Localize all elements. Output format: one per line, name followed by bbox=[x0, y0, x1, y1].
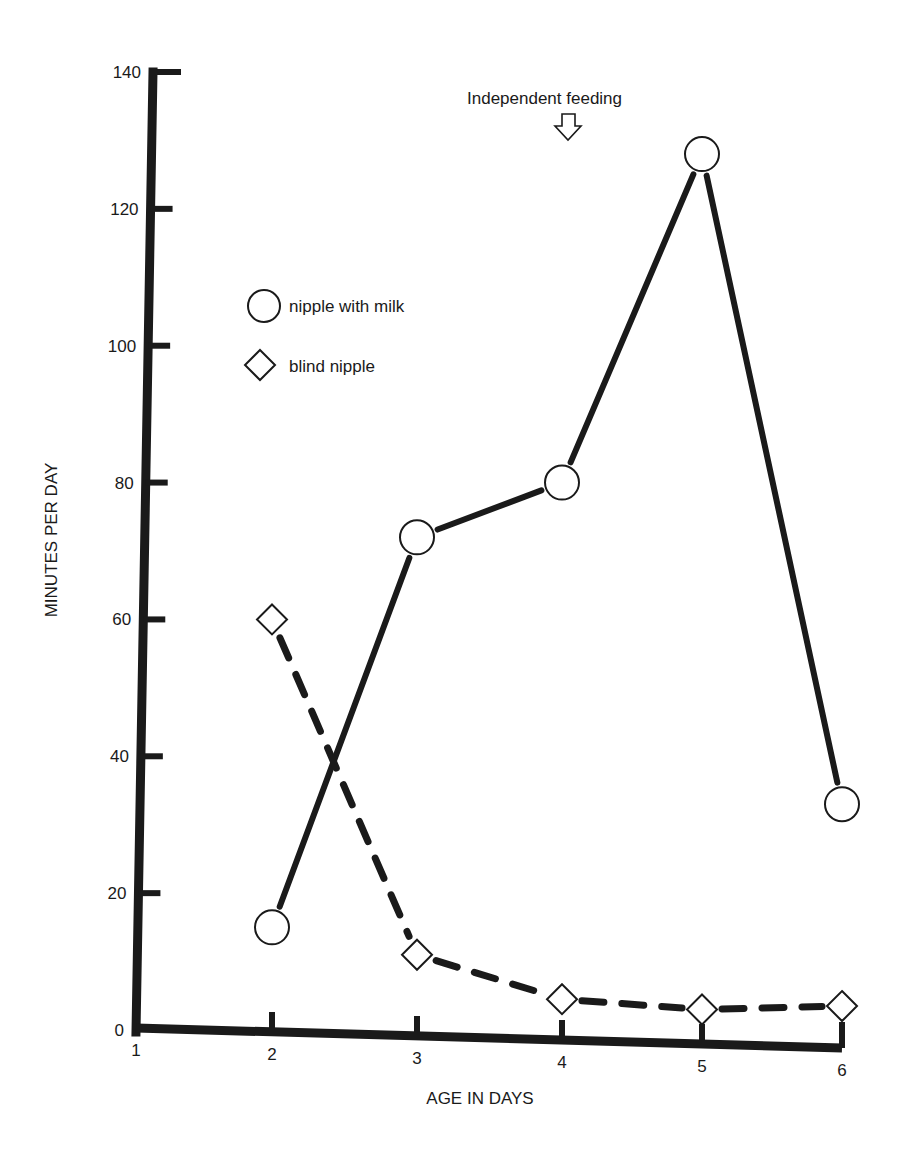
circle-marker-icon bbox=[248, 290, 280, 322]
series-blind-nipple bbox=[257, 604, 857, 1024]
y-tick-label: 140 bbox=[113, 63, 141, 82]
x-tick-label: 2 bbox=[267, 1045, 276, 1064]
series-nipple-with-milk bbox=[255, 137, 859, 944]
diamond-marker-icon bbox=[827, 991, 857, 1021]
x-axis: 123456 bbox=[131, 1012, 846, 1080]
diamond-marker-icon bbox=[257, 604, 287, 634]
x-tick-label: 4 bbox=[557, 1053, 566, 1072]
y-axis-title: MINUTES PER DAY bbox=[42, 463, 61, 618]
circle-marker-icon bbox=[685, 137, 719, 171]
y-axis: 020406080100120140 bbox=[108, 63, 181, 1040]
legend-label-milk: nipple with milk bbox=[289, 297, 405, 316]
diamond-marker-icon bbox=[245, 350, 275, 380]
y-tick-label: 120 bbox=[110, 200, 138, 219]
line-chart: 020406080100120140 123456 MINUTES PER DA… bbox=[0, 0, 906, 1161]
legend: nipple with milk blind nipple bbox=[245, 290, 405, 380]
diamond-marker-icon bbox=[687, 994, 717, 1024]
x-tick-label: 5 bbox=[697, 1057, 706, 1076]
legend-label-blind: blind nipple bbox=[289, 357, 375, 376]
series-layer bbox=[255, 137, 859, 1024]
y-tick-label: 40 bbox=[110, 747, 129, 766]
y-tick-label: 60 bbox=[112, 610, 131, 629]
circle-marker-icon bbox=[255, 910, 289, 944]
x-axis-title: AGE IN DAYS bbox=[426, 1089, 533, 1108]
x-tick-label: 1 bbox=[131, 1041, 140, 1060]
diamond-marker-icon bbox=[402, 940, 432, 970]
legend-item-milk: nipple with milk bbox=[248, 290, 405, 322]
y-tick-label: 20 bbox=[108, 884, 127, 903]
circle-marker-icon bbox=[825, 787, 859, 821]
down-arrow-icon bbox=[555, 114, 581, 140]
y-tick-label: 100 bbox=[108, 337, 136, 356]
y-tick-label: 80 bbox=[115, 474, 134, 493]
legend-item-blind: blind nipple bbox=[245, 350, 375, 380]
x-tick-label: 3 bbox=[412, 1049, 421, 1068]
circle-marker-icon bbox=[545, 466, 579, 500]
annotation-label: Independent feeding bbox=[467, 89, 622, 108]
y-tick-label: 0 bbox=[115, 1021, 124, 1040]
circle-marker-icon bbox=[400, 520, 434, 554]
annotation-independent-feeding: Independent feeding bbox=[467, 89, 622, 140]
diamond-marker-icon bbox=[547, 984, 577, 1014]
x-tick-label: 6 bbox=[837, 1061, 846, 1080]
